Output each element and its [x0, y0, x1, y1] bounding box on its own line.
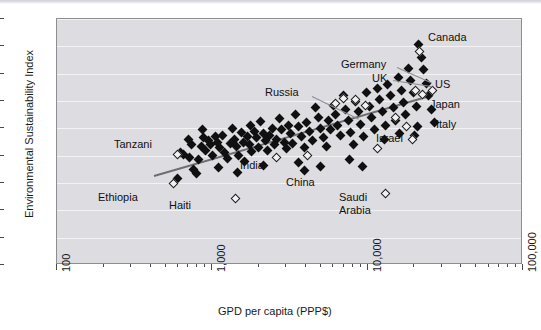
data-point-open — [380, 189, 390, 199]
x-tick-mark-minor — [177, 264, 178, 267]
annotation-label: Canada — [428, 31, 467, 43]
x-tick-mark-minor — [130, 264, 131, 267]
x-tick-mark-major — [522, 264, 523, 270]
annotation-label: Haiti — [169, 199, 191, 211]
x-tick-mark-minor — [187, 264, 188, 267]
data-point-filled — [313, 112, 323, 122]
data-point-filled — [274, 114, 284, 124]
annotation-label: Japan — [430, 98, 460, 110]
y-tick-mark — [0, 264, 4, 265]
x-tick-mark-minor — [103, 264, 104, 267]
x-tick-label: 100 — [61, 254, 72, 272]
annotation-label: Russia — [265, 86, 299, 98]
data-point-filled — [411, 102, 421, 112]
data-point-filled — [357, 162, 367, 172]
gridline — [57, 74, 521, 75]
data-point-filled — [299, 166, 309, 176]
y-tick-mark — [0, 100, 4, 101]
data-point-filled — [198, 125, 208, 135]
data-point-filled — [359, 132, 369, 142]
y-tick-mark — [0, 237, 4, 238]
y-axis: 0102030405060708090 Environmental Sustai… — [0, 0, 56, 330]
data-point-filled — [291, 110, 301, 120]
y-tick-mark — [0, 182, 4, 183]
x-tick-mark-minor — [258, 264, 259, 267]
data-point-filled — [375, 95, 385, 105]
data-point-filled — [361, 88, 371, 98]
data-point-filled — [372, 84, 382, 94]
x-tick-mark-major — [211, 264, 212, 270]
x-tick-mark-minor — [498, 264, 499, 267]
scatter-chart-figure: TanzaniEthiopiaHaitiIndiaChinaRussiaGerm… — [0, 0, 541, 330]
data-point-filled — [396, 85, 406, 95]
x-tick-mark-minor — [360, 264, 361, 267]
data-point-open — [372, 144, 382, 154]
gridline — [57, 210, 521, 211]
data-point-open — [230, 193, 240, 203]
x-tick-mark-minor — [515, 264, 516, 267]
x-tick-mark-minor — [150, 264, 151, 267]
x-tick-mark-minor — [305, 264, 306, 267]
annotation-label: Italy — [436, 118, 456, 130]
x-tick-mark-minor — [507, 264, 508, 267]
y-tick-mark — [0, 73, 4, 74]
annotation-label: Ethiopia — [98, 191, 138, 203]
annotation-label: Israel — [376, 132, 403, 144]
data-point-filled — [401, 110, 411, 120]
y-axis-title: Environmental Sustainability Index — [23, 19, 35, 249]
y-tick-mark — [0, 45, 4, 46]
x-tick-mark-minor — [320, 264, 321, 267]
data-point-filled — [307, 136, 317, 146]
annotation-label: China — [286, 176, 315, 188]
x-tick-mark-minor — [352, 264, 353, 267]
annotation-label: Saudi — [339, 191, 367, 203]
data-point-filled — [310, 103, 320, 113]
annotation-label: Germany — [341, 58, 386, 70]
data-point-filled — [321, 141, 331, 151]
data-point-filled — [214, 163, 224, 173]
data-point-filled — [316, 162, 326, 172]
x-tick-mark-major — [56, 264, 57, 270]
annotation-label: Tanzani — [114, 138, 152, 150]
x-tick-mark-minor — [460, 264, 461, 267]
x-tick-mark-minor — [196, 264, 197, 267]
x-tick-mark-minor — [475, 264, 476, 267]
x-tick-mark-minor — [343, 264, 344, 267]
data-point-filled — [256, 117, 266, 127]
x-tick-label: 1,000 — [216, 244, 227, 272]
annotation-label: UK — [372, 72, 387, 84]
data-point-open — [303, 151, 313, 161]
x-axis-title: GPD per capita (PPP$) — [218, 305, 332, 317]
y-tick-mark — [0, 127, 4, 128]
x-tick-mark-minor — [488, 264, 489, 267]
x-tick-mark-minor — [285, 264, 286, 267]
data-point-open — [272, 152, 282, 162]
x-tick-mark-minor — [441, 264, 442, 267]
data-point-filled — [348, 140, 358, 150]
x-tick-label: 100,000 — [527, 232, 538, 272]
annotation-label: Arabia — [339, 204, 371, 216]
x-tick-mark-minor — [332, 264, 333, 267]
data-point-open — [402, 122, 412, 132]
x-tick-mark-minor — [413, 264, 414, 267]
gridline — [57, 46, 521, 47]
annotation-label: India — [240, 159, 264, 171]
y-tick-mark — [0, 18, 4, 19]
gridline — [57, 156, 521, 157]
x-tick-mark-minor — [204, 264, 205, 267]
y-tick-mark — [0, 209, 4, 210]
data-point-filled — [336, 130, 346, 140]
data-point-filled — [399, 97, 409, 107]
annotation-label: US — [435, 78, 450, 90]
gridline — [57, 238, 521, 239]
x-tick-mark-major — [367, 264, 368, 270]
x-tick-label: 10,000 — [372, 238, 383, 272]
plot-area: TanzaniEthiopiaHaitiIndiaChinaRussiaGerm… — [56, 18, 522, 264]
y-tick-mark — [0, 155, 4, 156]
x-tick-mark-minor — [165, 264, 166, 267]
gridline — [57, 19, 521, 20]
data-point-filled — [385, 91, 395, 101]
